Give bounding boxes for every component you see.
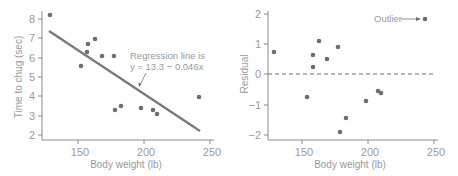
data-point [112, 54, 117, 59]
x-tick-label: 150 [295, 146, 313, 158]
right-x-axis-label: Body weight (lb) [314, 159, 386, 170]
right-x-tick-labels: 150 200 250 [295, 146, 445, 158]
data-point [197, 95, 202, 100]
y-tick-label: 2 [255, 8, 261, 20]
data-point [325, 57, 330, 62]
right-y-tick-labels: 2 1 0 −1 −2 [248, 8, 261, 141]
y-tick-label: 8 [29, 13, 35, 25]
right-x-ticks [302, 140, 434, 144]
arrowhead-icon [416, 17, 421, 21]
data-point [113, 108, 118, 113]
y-tick-label: 3 [29, 110, 35, 122]
y-tick-label: −2 [248, 129, 261, 141]
y-tick-label: 0 [255, 68, 261, 80]
left-y-tick-labels: 8 7 6 5 4 3 2 [29, 13, 35, 141]
left-y-ticks [38, 19, 42, 135]
data-point [311, 65, 316, 70]
right-data-points [272, 17, 428, 135]
data-point [85, 50, 90, 55]
outlier-annotation: Outlier [374, 13, 421, 24]
figure: 8 7 6 5 4 3 2 150 200 250 Body weight (l… [0, 0, 458, 176]
right-y-ticks [264, 14, 268, 135]
data-point [86, 42, 91, 47]
data-point [364, 99, 369, 104]
left-x-ticks [78, 140, 210, 144]
y-tick-label: 4 [29, 90, 35, 102]
data-point [305, 95, 310, 100]
data-point [151, 108, 156, 113]
right-y-axis-label: Residual [239, 55, 250, 94]
right-residual-plot: 2 1 0 −1 −2 150 200 250 Body weight (lb)… [239, 8, 445, 170]
x-tick-label: 200 [361, 146, 379, 158]
left-x-tick-labels: 150 200 250 [71, 146, 221, 158]
y-tick-label: 6 [29, 52, 35, 64]
left-axes [42, 11, 214, 140]
data-point [139, 106, 144, 111]
x-tick-label: 250 [203, 146, 221, 158]
data-point [338, 130, 343, 135]
annotation-line2: y = 13.3 − 0.046x [130, 61, 204, 72]
x-tick-label: 200 [137, 146, 155, 158]
left-y-axis-label: Time to chug (sec) [13, 36, 24, 118]
y-tick-label: 1 [255, 38, 261, 50]
data-point [311, 53, 316, 58]
data-point [379, 91, 384, 96]
data-point [344, 116, 349, 121]
data-point [155, 112, 160, 117]
data-point [93, 37, 98, 42]
outlier-label: Outlier [374, 13, 402, 24]
data-point [119, 104, 124, 109]
annotation-arrow [140, 73, 146, 85]
data-point [272, 50, 277, 55]
left-scatter-plot: 8 7 6 5 4 3 2 150 200 250 Body weight (l… [13, 11, 221, 170]
data-point [100, 54, 105, 59]
outlier-point [423, 17, 428, 22]
x-tick-label: 250 [427, 146, 445, 158]
data-point [317, 39, 322, 44]
data-point [336, 45, 341, 50]
left-x-axis-label: Body weight (lb) [90, 159, 162, 170]
y-tick-label: −1 [248, 99, 261, 111]
y-tick-label: 2 [29, 129, 35, 141]
right-axes [268, 11, 438, 140]
annotation-line1: Regression line is [130, 50, 205, 61]
y-tick-label: 7 [29, 32, 35, 44]
data-point [48, 13, 53, 18]
regression-annotation: Regression line is y = 13.3 − 0.046x [130, 50, 205, 87]
regression-line [49, 31, 200, 131]
x-tick-label: 150 [71, 146, 89, 158]
data-point [79, 64, 84, 69]
y-tick-label: 5 [29, 71, 35, 83]
